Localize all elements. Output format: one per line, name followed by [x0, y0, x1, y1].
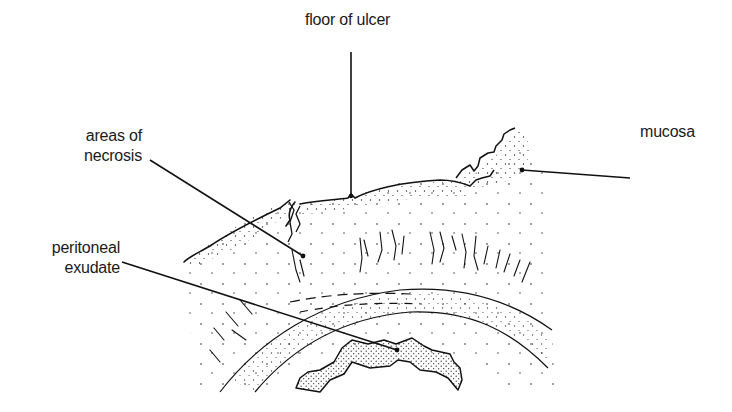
label-peritoneal-exudate-line2: exudate	[20, 258, 120, 278]
label-areas-of-necrosis-line2: necrosis	[62, 146, 142, 166]
tissue-drawing	[0, 0, 732, 412]
label-areas-of-necrosis-line1: areas of	[62, 126, 142, 146]
label-floor-of-ulcer: floor of ulcer	[305, 10, 390, 30]
label-peritoneal-exudate-line1: peritoneal	[20, 238, 120, 258]
label-mucosa: mucosa	[640, 122, 695, 142]
ulcer-diagram: floor of ulcer areas of necrosis mucosa …	[0, 0, 732, 412]
